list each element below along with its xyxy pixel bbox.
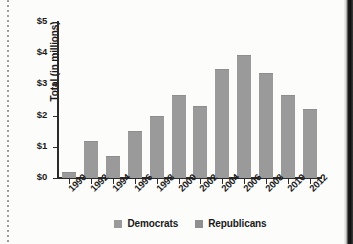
legend-swatch-icon <box>195 220 203 228</box>
y-axis-tick-label: $4 <box>37 46 47 57</box>
bar <box>281 95 295 178</box>
bar <box>106 156 120 178</box>
y-axis-tick-label: $2 <box>37 109 47 120</box>
bar <box>84 141 98 178</box>
bar <box>128 131 142 178</box>
chart-page: Total (in millions) $0$1$2$3$4$5 1990199… <box>0 0 353 244</box>
y-axis-tick-mark <box>53 178 58 179</box>
plot-area <box>58 22 321 178</box>
y-axis-tick-label: $1 <box>37 140 47 151</box>
legend-label: Democrats <box>127 218 178 229</box>
legend-label: Republicans <box>208 218 266 229</box>
bar-chart: Total (in millions) $0$1$2$3$4$5 1990199… <box>0 0 353 244</box>
legend-item: Democrats <box>114 218 178 229</box>
y-axis-tick-label: $5 <box>37 15 47 26</box>
bar <box>259 73 273 178</box>
bar <box>237 55 251 178</box>
bar <box>172 95 186 178</box>
bar <box>150 116 164 178</box>
y-axis-tick-label: $0 <box>37 171 47 182</box>
bar <box>215 69 229 178</box>
legend-item: Republicans <box>195 218 266 229</box>
bar <box>193 106 207 178</box>
legend-swatch-icon <box>114 220 122 228</box>
scan-right-gutter-artifact <box>344 0 353 244</box>
bar <box>303 109 317 178</box>
chart-legend: DemocratsRepublicans <box>58 218 323 229</box>
y-axis-tick-label: $3 <box>37 77 47 88</box>
